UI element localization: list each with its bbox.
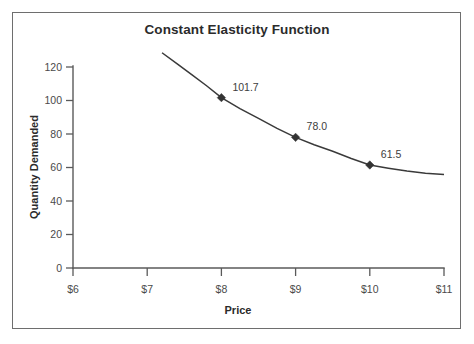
y-axis-tick-labels: 120 100 80 60 40 20 0 [44,61,62,274]
x-axis-ticks [73,268,444,276]
data-point-label: 78.0 [307,120,328,132]
y-tick-label: 100 [44,94,62,106]
chart-figure: Constant Elasticity Function 120 100 80 … [0,0,474,344]
x-tick-label: $6 [67,283,79,295]
x-tick-label: $8 [216,283,228,295]
data-point-marker [291,133,299,141]
y-tick-label: 20 [50,228,62,240]
y-axis-ticks [66,67,73,268]
demand-curve [162,53,444,175]
y-tick-label: 80 [50,128,62,140]
x-axis-title: Price [225,304,252,316]
y-tick-label: 120 [44,61,62,73]
y-tick-label: 40 [50,195,62,207]
plot-area: 120 100 80 60 40 20 0 $6 $7 $8 $9 $10 $1… [0,0,474,344]
data-point-label: 61.5 [381,148,402,160]
data-point-marker [366,161,374,169]
y-tick-label: 60 [50,161,62,173]
x-axis-tick-labels: $6 $7 $8 $9 $10 $11 [67,283,452,295]
x-tick-label: $9 [290,283,302,295]
y-tick-label: 0 [56,262,62,274]
y-axis-title: Quantity Demanded [28,115,40,219]
x-tick-label: $11 [436,283,453,295]
data-point-labels: 101.778.061.5 [232,81,401,160]
data-point-label: 101.7 [232,81,258,93]
x-tick-label: $7 [141,283,153,295]
x-tick-label: $10 [361,283,379,295]
